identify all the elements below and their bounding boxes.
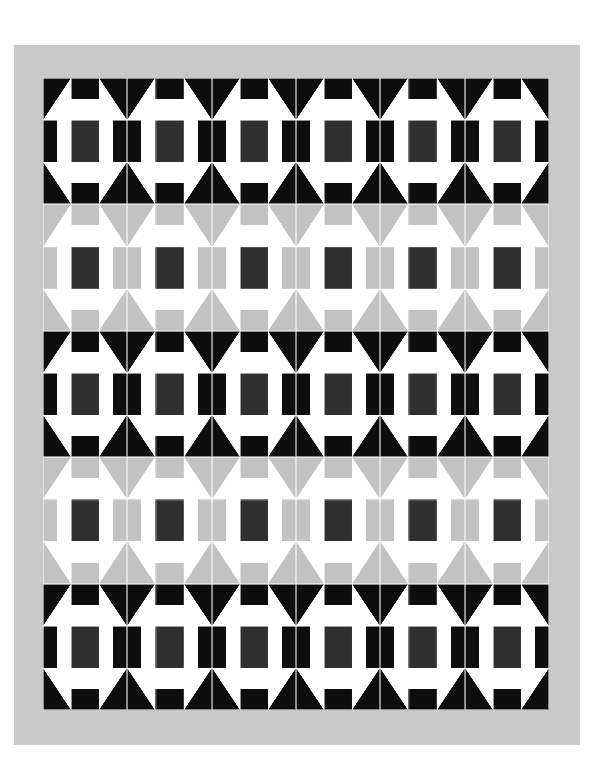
block-patch-bottom-center [155, 162, 183, 204]
block-patch-top-center [324, 584, 352, 626]
block-patch-top-right [99, 331, 127, 373]
quilt-block [127, 331, 211, 457]
block-patch-mid-left [296, 120, 324, 162]
block-patch-bottom-right [268, 162, 296, 204]
block-patch-mid-left [380, 120, 408, 162]
block-patch-bottom-center [240, 668, 268, 710]
block-patch-top-right [521, 457, 549, 499]
block-patch-top-left [43, 584, 71, 626]
block-patch-bottom-left [43, 289, 71, 331]
block-patch-bottom-right [521, 668, 549, 710]
block-patch-bottom-right [437, 668, 465, 710]
block-patch-top-right [99, 78, 127, 120]
quilt-block [380, 584, 464, 710]
block-patch-bottom-left [380, 668, 408, 710]
block-patch-bottom-right [99, 289, 127, 331]
block-patch-bottom-center [71, 541, 99, 583]
block-patch-top-right [521, 584, 549, 626]
block-patch-mid-right [184, 499, 212, 541]
block-patch-mid-right [352, 120, 380, 162]
block-patch-bottom-right [352, 668, 380, 710]
block-patch-top-left [465, 584, 493, 626]
quilt-row-gray-3 [43, 457, 549, 583]
block-patch-top-left [212, 584, 240, 626]
block-patch-top-left [296, 584, 324, 626]
quilt-row-black-4 [43, 584, 549, 710]
block-patch-center [493, 120, 521, 162]
block-patch-bottom-right [437, 289, 465, 331]
block-patch-top-left [380, 78, 408, 120]
block-patch-top-right [352, 204, 380, 246]
block-patch-bottom-left [127, 162, 155, 204]
block-patch-top-center [324, 331, 352, 373]
block-patch-bottom-left [465, 541, 493, 583]
block-patch-bottom-right [521, 162, 549, 204]
block-patch-bottom-right [521, 415, 549, 457]
block-patch-bottom-right [99, 668, 127, 710]
block-patch-center [324, 120, 352, 162]
block-patch-top-center [71, 331, 99, 373]
block-patch-mid-right [268, 626, 296, 668]
block-patch-top-left [212, 204, 240, 246]
block-patch-center [408, 120, 436, 162]
block-patch-mid-left [127, 626, 155, 668]
quilt-block [296, 204, 380, 330]
block-patch-top-right [268, 204, 296, 246]
quilt-block [380, 457, 464, 583]
block-patch-bottom-center [324, 415, 352, 457]
quilt-block [127, 204, 211, 330]
block-patch-mid-right [184, 373, 212, 415]
block-patch-mid-right [437, 626, 465, 668]
block-patch-bottom-right [184, 668, 212, 710]
block-patch-top-left [465, 78, 493, 120]
block-patch-top-right [184, 457, 212, 499]
quilt-block [380, 204, 464, 330]
block-patch-top-center [240, 457, 268, 499]
block-patch-top-center [324, 204, 352, 246]
block-patch-top-left [127, 584, 155, 626]
block-patch-bottom-right [521, 289, 549, 331]
block-patch-mid-left [43, 247, 71, 289]
block-patch-mid-right [99, 499, 127, 541]
block-patch-mid-right [184, 120, 212, 162]
block-patch-top-left [465, 331, 493, 373]
block-patch-center [155, 373, 183, 415]
block-patch-bottom-left [127, 541, 155, 583]
block-patch-bottom-center [240, 289, 268, 331]
block-patch-bottom-left [43, 668, 71, 710]
block-patch-mid-right [268, 247, 296, 289]
block-patch-mid-right [352, 499, 380, 541]
block-patch-mid-right [521, 373, 549, 415]
block-patch-mid-left [43, 373, 71, 415]
block-patch-top-right [99, 584, 127, 626]
block-patch-top-center [408, 78, 436, 120]
quilt-block [43, 584, 127, 710]
block-patch-mid-left [127, 373, 155, 415]
block-patch-top-right [437, 331, 465, 373]
quilt-block [296, 331, 380, 457]
block-patch-bottom-center [493, 541, 521, 583]
block-patch-bottom-center [71, 162, 99, 204]
block-patch-center [493, 499, 521, 541]
block-patch-center [408, 373, 436, 415]
block-patch-mid-left [465, 247, 493, 289]
block-patch-top-center [493, 78, 521, 120]
quilt-block [380, 331, 464, 457]
block-patch-top-left [380, 204, 408, 246]
block-patch-top-left [43, 204, 71, 246]
block-patch-top-right [184, 584, 212, 626]
block-patch-center [71, 499, 99, 541]
block-patch-center [324, 626, 352, 668]
block-patch-top-left [296, 457, 324, 499]
block-patch-mid-left [380, 626, 408, 668]
quilt-row-gray-1 [43, 204, 549, 330]
block-patch-bottom-right [352, 415, 380, 457]
block-patch-top-center [240, 204, 268, 246]
quilt-block [296, 457, 380, 583]
block-patch-bottom-center [493, 162, 521, 204]
block-patch-bottom-right [352, 162, 380, 204]
block-patch-top-left [212, 331, 240, 373]
block-patch-center [324, 247, 352, 289]
block-patch-top-left [127, 457, 155, 499]
block-patch-bottom-left [296, 541, 324, 583]
